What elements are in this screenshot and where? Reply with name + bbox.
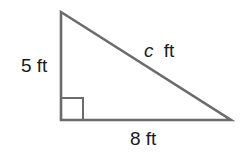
vertical-leg-label: 5 ft — [21, 55, 48, 76]
right-triangle-diagram: 5 ft c ft 8 ft — [0, 0, 242, 154]
hypotenuse-unit: ft — [164, 40, 175, 61]
horizontal-leg-label: 8 ft — [130, 128, 157, 149]
right-angle-marker — [61, 98, 83, 120]
triangle-outline — [61, 12, 231, 120]
hypotenuse-variable: c — [144, 40, 154, 61]
hypotenuse-label: c ft — [144, 40, 175, 61]
